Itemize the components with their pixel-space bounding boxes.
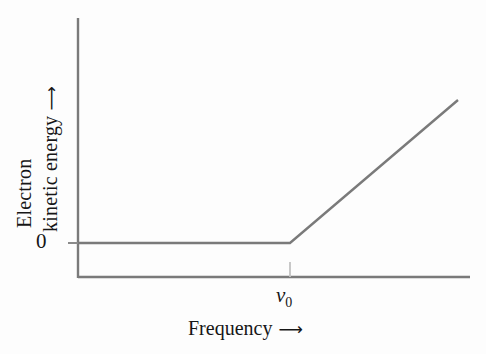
nu-subscript: 0 [285, 295, 292, 310]
x-axis-label-text: Frequency [188, 317, 272, 339]
nu-symbol: ν [276, 283, 285, 307]
y-axis-arrow-icon: ⟶ [41, 87, 61, 110]
x-axis-threshold-label: ν0 [276, 285, 292, 310]
y-axis-label-line-2: kinetic energy ⟶ [40, 87, 60, 232]
y-axis-label-line-2-text: kinetic energy [39, 116, 61, 232]
data-line-kinetic-energy [78, 100, 458, 243]
y-axis-label-line-1: Electron [14, 159, 34, 228]
x-axis-label: Frequency⟶ [188, 318, 302, 338]
photoelectric-effect-figure: Electron kinetic energy ⟶ 0 ν0 Frequency… [0, 0, 486, 354]
x-axis-arrow-icon: ⟶ [278, 319, 301, 339]
y-axis-zero-label: 0 [36, 231, 47, 252]
